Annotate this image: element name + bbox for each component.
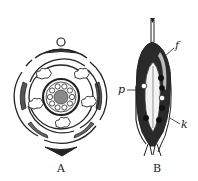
- ovule: [62, 105, 67, 110]
- perianth-outer-arc: [26, 60, 32, 66]
- floral-diagram-a: A: [14, 38, 107, 175]
- ovule: [50, 101, 55, 106]
- panel-label-a: A: [56, 162, 66, 175]
- bract-bottom: [45, 147, 77, 156]
- annotation-p: p: [118, 83, 125, 96]
- seed: [159, 105, 165, 111]
- ovule: [67, 101, 72, 106]
- annotation-k: k: [181, 118, 188, 131]
- section-diagram-b: f p k B: [118, 18, 188, 175]
- annotation-f: f: [174, 39, 181, 52]
- anther: [28, 98, 43, 109]
- anther: [81, 96, 96, 107]
- leader-line-k: [170, 118, 180, 124]
- figure-canvas: A f p k B: [0, 0, 198, 181]
- ovary-center: [54, 90, 68, 104]
- ovule: [69, 94, 74, 99]
- ovule: [47, 94, 52, 99]
- seed: [159, 95, 165, 101]
- leader-line-f: [164, 48, 174, 57]
- ovule: [62, 84, 67, 89]
- axis-marker: [57, 38, 65, 46]
- seed: [156, 117, 162, 123]
- seed: [158, 75, 164, 81]
- anther: [36, 68, 51, 79]
- ovule: [55, 84, 60, 89]
- ovule: [67, 88, 72, 93]
- bract-left: [20, 82, 27, 110]
- anther: [74, 68, 89, 79]
- seed: [159, 85, 165, 91]
- style-beak: [151, 20, 154, 42]
- panel-label-b: B: [153, 162, 161, 175]
- ovule: [55, 105, 60, 110]
- seed: [141, 83, 147, 89]
- anther: [55, 117, 70, 128]
- ovule: [50, 88, 55, 93]
- seed: [143, 115, 149, 121]
